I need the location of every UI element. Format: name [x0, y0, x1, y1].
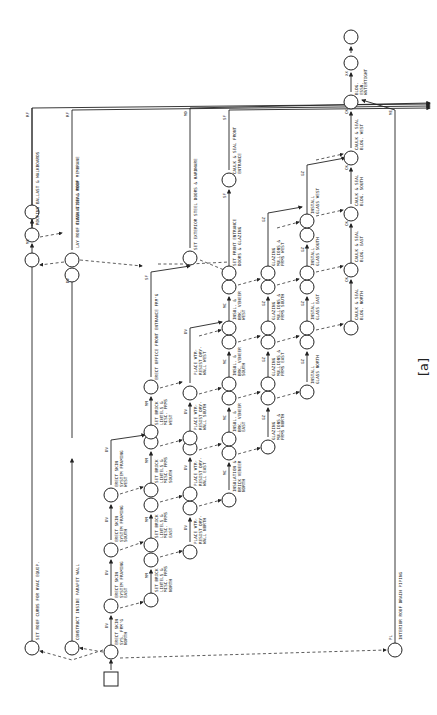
activity-arrows [32, 47, 430, 670]
svg-text:PLACE WTR-RESIST DRY-WALL SOUT: PLACE WTR-RESIST DRY-WALL SOUTH [193, 401, 207, 430]
svg-text:CAULK & SEALBLDG. WEST: CAULK & SEALBLDG. WEST [354, 118, 364, 150]
svg-text:MC: MC [222, 359, 227, 364]
svg-text:MC: MC [222, 303, 227, 308]
svg-text:RF: RF [65, 112, 70, 117]
event-nodes [25, 30, 402, 686]
svg-text:GZ: GZ [261, 217, 266, 222]
svg-text:MM: MM [144, 401, 149, 406]
svg-text:BLDG.ESSN.WATERTIGHT: BLDG.ESSN.WATERTIGHT [354, 68, 368, 95]
svg-text:CK: CK [344, 109, 349, 114]
svg-text:SET BRICKLINTELS &MISC. FRMSEA: SET BRICKLINTELS &MISC. FRMSEAST [154, 511, 173, 538]
svg-text:GZ: GZ [300, 171, 305, 176]
svg-text:PLACE WTR-RESIST DRY-WALL EAST: PLACE WTR-RESIST DRY-WALL EAST [193, 457, 207, 486]
svg-text:ERECT SKINSYSTEM FRAMINGSOUTH: ERECT SKINSYSTEM FRAMINGSOUTH [114, 505, 128, 542]
svg-text:INSTALLGLASS SOUTH: INSTALLGLASS SOUTH [310, 237, 320, 266]
svg-text:CK: CK [344, 165, 349, 170]
svg-text:INSUL. &BRK. VENEERSOUTH: INSUL. &BRK. VENEERSOUTH [232, 347, 246, 376]
svg-text:INSTALLGLASS WEST: INSTALLGLASS WEST [310, 187, 320, 214]
svg-text:MM: MM [144, 458, 149, 463]
svg-text:DV: DV [183, 409, 188, 414]
svg-text:SF: SF [222, 115, 227, 120]
svg-text:SET BRICKLINTELS &MISC. FRMSWE: SET BRICKLINTELS &MISC. FRMSWEST [154, 398, 173, 425]
svg-text:MM: MM [144, 517, 149, 522]
svg-text:GLAZINGMULLIONS &FRMS NORTH: GLAZINGMULLIONS &FRMS NORTH [271, 413, 285, 440]
svg-text:DV: DV [104, 517, 109, 522]
svg-text:ERECT SKINSYSTEM FRAMINGEAST: ERECT SKINSYSTEM FRAMINGEAST [114, 561, 128, 598]
svg-text:CAULK & SEALBLDG. EAST: CAULK & SEALBLDG. EAST [354, 230, 364, 262]
svg-text:INSTALLGLASS EAST: INSTALLGLASS EAST [310, 293, 320, 320]
svg-text:SET ROOF CURBS FOR HVAC EQUIP.: SET ROOF CURBS FOR HVAC EQUIP. [35, 561, 40, 640]
svg-text:ME: ME [388, 110, 393, 115]
svg-text:DV: DV [183, 465, 188, 470]
svg-text:SET BRICKLINTELS &MISC. FRMSSO: SET BRICKLINTELS &MISC. FRMSSOUTH [154, 456, 173, 483]
svg-text:MD: MD [183, 111, 188, 116]
svg-text:ERECT OFFICE FRONT ENTRANCE FR: ERECT OFFICE FRONT ENTRANCE FRM'G [154, 293, 159, 380]
svg-text:RF: RF [25, 112, 30, 117]
svg-text:PLACE WTR-RESIST DRY-WALL NORT: PLACE WTR-RESIST DRY-WALL NORTH [193, 515, 207, 544]
start-box [104, 672, 118, 686]
svg-text:SF: SF [144, 275, 149, 280]
svg-text:MC: MC [222, 470, 227, 475]
svg-text:DV: DV [65, 278, 70, 283]
svg-text:INSUL. &BRK. VENEERWEST: INSUL. &BRK. VENEERWEST [232, 291, 246, 320]
svg-text:CAULK & SEALBLDG. SOUTH: CAULK & SEALBLDG. SOUTH [354, 174, 364, 206]
svg-text:GLAZINGMULLIONS &FRMS EAST: GLAZINGMULLIONS &FRMS EAST [271, 349, 285, 376]
svg-text:GZ: GZ [300, 359, 305, 364]
svg-text:GZ: GZ [261, 301, 266, 306]
svg-text:SET FRONT ENTRANCEDOORS & GLAZ: SET FRONT ENTRANCEDOORS & GLAZING [232, 218, 242, 266]
svg-text:INSTALLGLASS NORTH: INSTALLGLASS NORTH [310, 355, 320, 384]
svg-text:MM: MM [144, 573, 149, 578]
figure-label: [a] [416, 358, 431, 376]
cpm-network-diagram: SET ROOF CURBS FOR HVAC EQUIP. ME CONSTR… [0, 0, 437, 715]
svg-text:CONSTRUCT INSIDE PARAPET WALL: CONSTRUCT INSIDE PARAPET WALL [75, 564, 80, 640]
svg-text:PLACE WTR-RESIST DRY-WALL WEST: PLACE WTR-RESIST DRY-WALL WEST [193, 346, 207, 375]
svg-text:GZ: GZ [261, 357, 266, 362]
svg-text:GZ: GZ [300, 247, 305, 252]
svg-text:CK: CK [344, 221, 349, 226]
svg-text:DV: DV [104, 570, 109, 575]
svg-text:ME: ME [25, 239, 30, 244]
svg-text:PL: PL [388, 635, 393, 640]
svg-text:GLAZINGMULLIONS &FRMS WEST: GLAZINGMULLIONS &FRMS WEST [271, 239, 285, 266]
svg-text:DV: DV [104, 447, 109, 452]
svg-text:INSUL. &BRK. VENEEREAST: INSUL. &BRK. VENEEREAST [232, 403, 246, 432]
svg-text:SF: SF [222, 193, 227, 198]
svg-text:MC: MC [222, 415, 227, 420]
svg-text:ERECT SKINSYS. FRM'GNORTH: ERECT SKINSYS. FRM'GNORTH [114, 618, 128, 645]
svg-text:GZ: GZ [300, 301, 305, 306]
svg-text:FLASH & SEAL ROOF: FLASH & SEAL ROOF [75, 180, 80, 225]
svg-text:ERECT SKINSYSTEM FRAMINGWEST: ERECT SKINSYSTEM FRAMINGWEST [114, 450, 128, 487]
svg-text:XX: XX [344, 71, 349, 76]
svg-text:ROOFING BALLAST & WALKBOARDS: ROOFING BALLAST & WALKBOARDS [35, 151, 40, 225]
svg-text:DV: DV [183, 329, 188, 334]
svg-text:CK: CK [344, 277, 349, 282]
dummy-arrows [40, 154, 386, 660]
svg-text:INTERIOR ROOF DRAIN PIPING: INTERIOR ROOF DRAIN PIPING [398, 571, 403, 640]
svg-text:CAULK & SEAL FRONTENTRANCE: CAULK & SEAL FRONTENTRANCE [232, 126, 242, 174]
svg-text:SET EXTERIOR STEEL DOORS & HAR: SET EXTERIOR STEEL DOORS & HARDWARE [193, 158, 198, 250]
svg-text:DV: DV [104, 623, 109, 628]
svg-text:GLAZINGMULLIONS &FRMS SOUTH: GLAZINGMULLIONS &FRMS SOUTH [271, 293, 285, 320]
svg-text:SET BRICKLINTELS &MISC. FRMSNO: SET BRICKLINTELS &MISC. FRMSNORTH [154, 565, 173, 592]
svg-text:GZ: GZ [261, 415, 266, 420]
svg-text:CAULK & SEALBLDG. NORTH: CAULK & SEALBLDG. NORTH [354, 288, 364, 320]
svg-text:INSULATION &BRICK VENEERNORTH: INSULATION &BRICK VENEERNORTH [232, 460, 246, 492]
svg-text:DV: DV [183, 525, 188, 530]
